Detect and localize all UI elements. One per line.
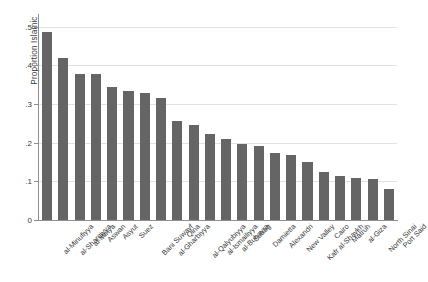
bar-slot xyxy=(140,19,150,220)
gridline xyxy=(39,220,397,221)
bar-slot xyxy=(42,19,52,220)
bar xyxy=(123,91,133,220)
bar xyxy=(254,146,264,220)
bar-slot xyxy=(172,19,182,220)
bar xyxy=(335,176,345,220)
bar xyxy=(319,172,329,220)
bar-slot xyxy=(368,19,378,220)
bar-slot xyxy=(254,19,264,220)
bar-slot xyxy=(75,19,85,220)
bar-slot xyxy=(123,19,133,220)
bar-slot xyxy=(351,19,361,220)
y-tick-label: .1 xyxy=(25,177,32,186)
bar xyxy=(286,155,296,220)
y-tick-mark xyxy=(34,143,38,144)
y-tick-mark xyxy=(34,181,38,182)
bar-slot xyxy=(58,19,68,220)
bar-slot xyxy=(107,19,117,220)
bar xyxy=(75,74,85,220)
bar xyxy=(107,87,117,220)
bar-slot xyxy=(302,19,312,220)
bar xyxy=(221,139,231,220)
y-tick-mark xyxy=(34,27,38,28)
bar-slot xyxy=(286,19,296,220)
y-tick-label: .5 xyxy=(25,22,32,31)
bar xyxy=(237,144,247,220)
bar-slot xyxy=(384,19,394,220)
bar-slot xyxy=(319,19,329,220)
bar-slot xyxy=(221,19,231,220)
bar xyxy=(384,189,394,220)
bar xyxy=(189,125,199,220)
bar-series xyxy=(39,19,397,220)
bar xyxy=(351,178,361,220)
bar-slot xyxy=(189,19,199,220)
bar xyxy=(156,98,166,220)
bar-slot xyxy=(205,19,215,220)
y-tick-mark xyxy=(34,220,38,221)
bar xyxy=(140,93,150,220)
bar xyxy=(270,153,280,220)
y-tick-label: 0 xyxy=(28,216,32,225)
bar xyxy=(91,74,101,220)
bar-slot xyxy=(156,19,166,220)
y-tick-label: .4 xyxy=(25,61,32,70)
x-tick-label: Suez xyxy=(136,222,154,240)
bar-slot xyxy=(91,19,101,220)
bar xyxy=(58,58,68,220)
bar xyxy=(42,32,52,220)
bar xyxy=(302,162,312,220)
plot-area: 0.1.2.3.4.5 xyxy=(39,19,397,220)
y-tick-label: .2 xyxy=(25,138,32,147)
bar xyxy=(205,134,215,220)
bar-slot xyxy=(237,19,247,220)
bar xyxy=(172,121,182,220)
y-tick-label: .3 xyxy=(25,100,32,109)
x-axis-tick-labels: al-Minufiyyaal-Sharqiyyaal-MinyaAswanAsy… xyxy=(39,222,397,282)
bar-slot xyxy=(335,19,345,220)
y-tick-mark xyxy=(34,104,38,105)
y-tick-mark xyxy=(34,65,38,66)
bar xyxy=(368,179,378,220)
bar-slot xyxy=(270,19,280,220)
